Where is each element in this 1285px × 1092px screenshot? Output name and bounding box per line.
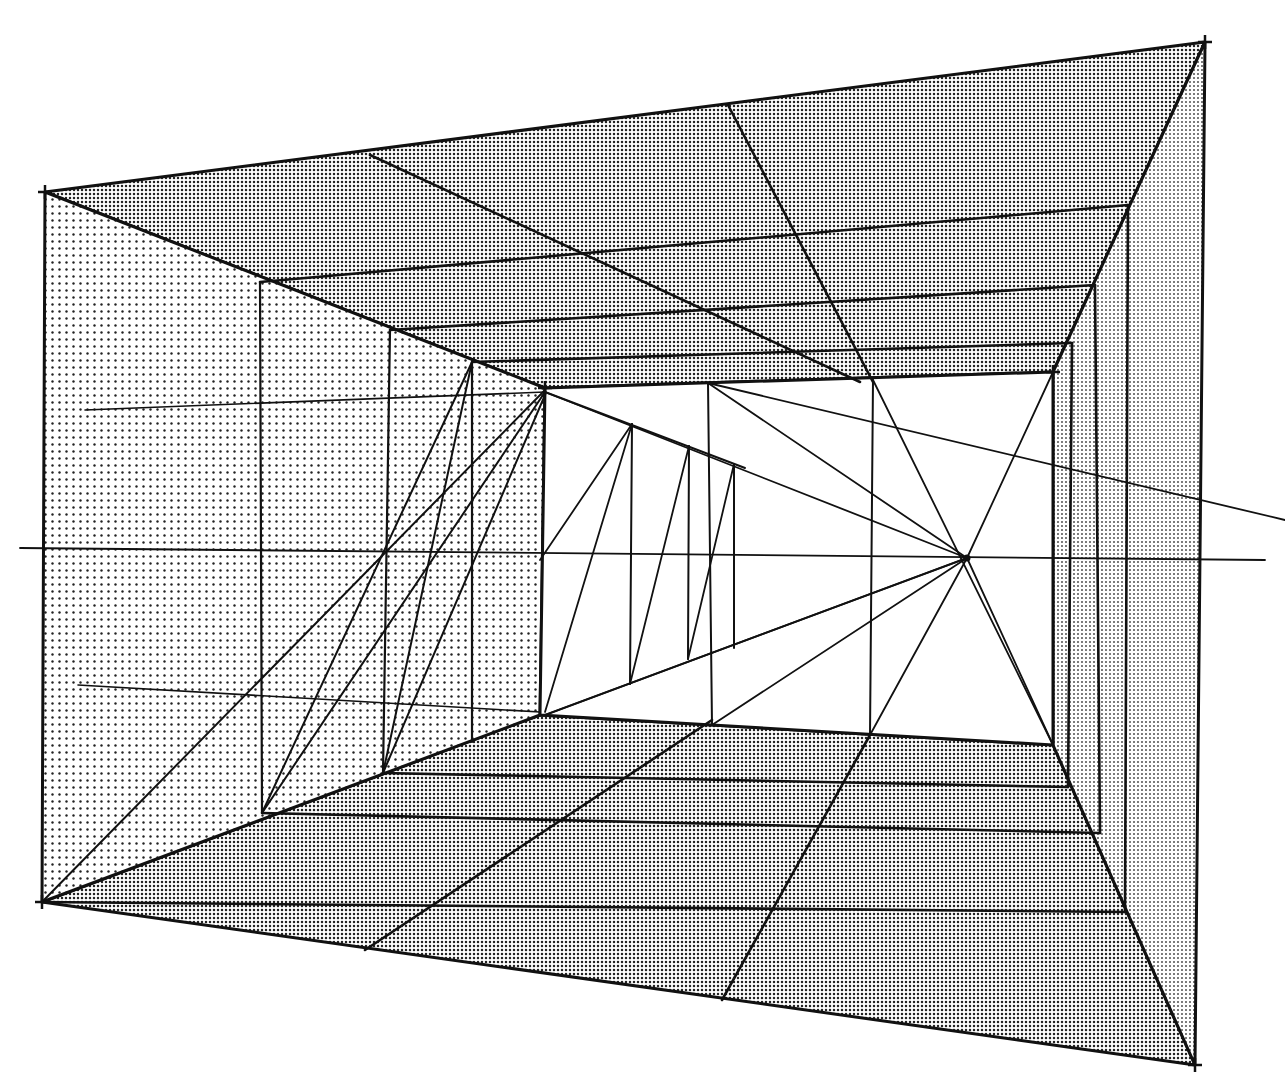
receding-frame-post bbox=[688, 446, 689, 659]
perspective-drawing bbox=[0, 0, 1285, 1092]
vanishing-point-marker bbox=[964, 555, 971, 562]
perspective-figure bbox=[0, 0, 1285, 1092]
